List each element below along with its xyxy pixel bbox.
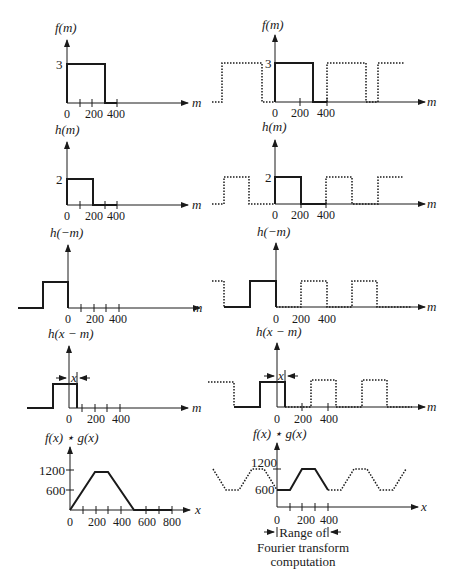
ytick: 2 bbox=[56, 172, 63, 187]
xtick: 0 bbox=[64, 107, 70, 121]
panel-hneg-left: h(−m) m 0 200 400 bbox=[18, 225, 202, 326]
x-label: m bbox=[192, 197, 201, 212]
shift-x-label: x bbox=[277, 368, 284, 383]
xtick: 0 bbox=[272, 208, 278, 222]
ytick: 600 bbox=[46, 483, 66, 498]
x-label: x bbox=[194, 502, 201, 517]
xtick: 0 bbox=[272, 106, 278, 120]
xtick: 0 bbox=[274, 412, 280, 426]
ytick: 3 bbox=[56, 57, 63, 72]
xtick: 400 bbox=[317, 106, 335, 120]
xtick: 200 bbox=[291, 106, 309, 120]
xtick: 200 bbox=[85, 107, 103, 121]
panel-f-left: f(m) 3 m 0 200 400 bbox=[55, 20, 201, 121]
panel-f-right: f(m) 3 m 0 200 400 bbox=[212, 17, 436, 120]
y-label: f(x) ⋆ g(x) bbox=[253, 426, 306, 441]
xtick: 200 bbox=[88, 515, 106, 529]
range-caption-line3: computation bbox=[271, 554, 336, 569]
range-caption-line2: Fourier transform bbox=[257, 540, 349, 555]
xtick: 600 bbox=[138, 515, 156, 529]
xtick: 400 bbox=[318, 312, 336, 326]
y-label: h(x − m) bbox=[256, 324, 302, 339]
x-label: m bbox=[427, 196, 436, 211]
xtick: 400 bbox=[112, 412, 130, 426]
x-label: m bbox=[192, 400, 201, 415]
x-label: m bbox=[193, 300, 202, 315]
xtick: 400 bbox=[107, 107, 125, 121]
convolution-figure: f(m) 3 m 0 200 400 h(m) 2 m 0 200 400 h(… bbox=[0, 0, 452, 573]
xtick: 400 bbox=[113, 515, 131, 529]
y-label: h(−m) bbox=[50, 225, 83, 240]
xtick: 800 bbox=[163, 515, 181, 529]
x-label: x bbox=[420, 499, 427, 514]
ytick: 1200 bbox=[39, 463, 65, 478]
y-label: f(m) bbox=[262, 17, 284, 32]
panel-hshift-left: x h(x − m) m 0 200 400 bbox=[27, 326, 201, 426]
svg-text:f(m): f(m) bbox=[55, 20, 77, 35]
ytick: 600 bbox=[255, 482, 275, 497]
xtick: 200 bbox=[87, 412, 105, 426]
panel-hshift-right: x h(x − m) m 0 200 400 bbox=[208, 324, 436, 426]
xtick: 200 bbox=[85, 209, 103, 223]
xtick: 400 bbox=[317, 208, 335, 222]
ytick: 1200 bbox=[251, 455, 277, 470]
x-label: m bbox=[192, 95, 201, 110]
shift-x-label: x bbox=[70, 370, 77, 385]
xtick: 0 bbox=[67, 515, 73, 529]
xtick: 200 bbox=[291, 208, 309, 222]
xtick: 0 bbox=[64, 209, 70, 223]
xtick: 400 bbox=[107, 209, 125, 223]
panel-h-right: h(m) 2 m 0 200 400 bbox=[212, 119, 436, 222]
panel-h-left: h(m) 2 m 0 200 400 bbox=[55, 122, 201, 223]
panel-conv-left: f(x) ⋆ g(x) 1200 600 x 0 200 400 600 800 bbox=[39, 430, 201, 529]
y-label: h(m) bbox=[55, 122, 80, 137]
panel-conv-right: f(x) ⋆ g(x) 1200 600 x 0 200 400 Range o… bbox=[213, 426, 427, 569]
y-label: f(m) bbox=[55, 20, 77, 35]
y-label: h(m) bbox=[262, 119, 287, 134]
xtick: 400 bbox=[109, 312, 127, 326]
x-label: m bbox=[427, 299, 436, 314]
y-label: h(−m) bbox=[257, 224, 290, 239]
panel-hneg-right: h(−m) m 0 200 400 bbox=[212, 224, 436, 326]
xtick: 0 bbox=[66, 412, 72, 426]
ytick: 2 bbox=[265, 170, 272, 185]
range-caption-line1: Range of bbox=[279, 525, 327, 540]
xtick: 200 bbox=[86, 312, 104, 326]
y-label: f(x) ⋆ g(x) bbox=[45, 430, 98, 445]
xtick: 0 bbox=[65, 312, 71, 326]
x-label: m bbox=[427, 399, 436, 414]
xtick: 200 bbox=[294, 412, 312, 426]
x-label: m bbox=[427, 94, 436, 109]
y-label: h(x − m) bbox=[48, 326, 94, 341]
xtick: 400 bbox=[320, 412, 338, 426]
ytick: 3 bbox=[265, 56, 272, 71]
